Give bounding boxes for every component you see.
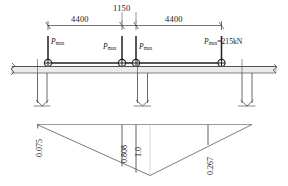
load-label-2: Pmax — [103, 43, 116, 51]
ordinate-label-10: 1.0 — [135, 147, 143, 157]
load-subscript-3: max — [144, 45, 153, 51]
load-label-1: Pmax — [51, 38, 64, 46]
load-value-4: =215kN — [217, 37, 242, 46]
ordinate-label-0267: 0.267 — [207, 157, 215, 175]
load-label-4: Pmax=215kN — [204, 38, 242, 46]
dimension-label-left-4400: 4400 — [71, 15, 89, 24]
load-subscript-1: max — [56, 40, 65, 46]
load-subscript-2: max — [108, 45, 117, 51]
influence-line-profile — [37, 125, 252, 176]
support-column-3 — [238, 59, 256, 106]
dimension-label-1150: 1150 — [113, 4, 131, 13]
load-label-3: Pmax — [139, 43, 152, 51]
figure-root: 4400 1150 4400 Pmax Pmax Pmax Pmax=215kN… — [0, 0, 288, 186]
wheel-load-group — [44, 36, 225, 67]
influence-line-group — [37, 125, 252, 176]
load-subscript-4: max — [209, 40, 218, 46]
beam-body — [12, 67, 276, 74]
ordinate-label-0075: 0.075 — [36, 139, 44, 157]
dimension-label-right-4400: 4400 — [165, 15, 183, 24]
engineering-diagram-canvas — [0, 0, 288, 186]
ordinate-label-0808: 0.808 — [121, 145, 129, 163]
